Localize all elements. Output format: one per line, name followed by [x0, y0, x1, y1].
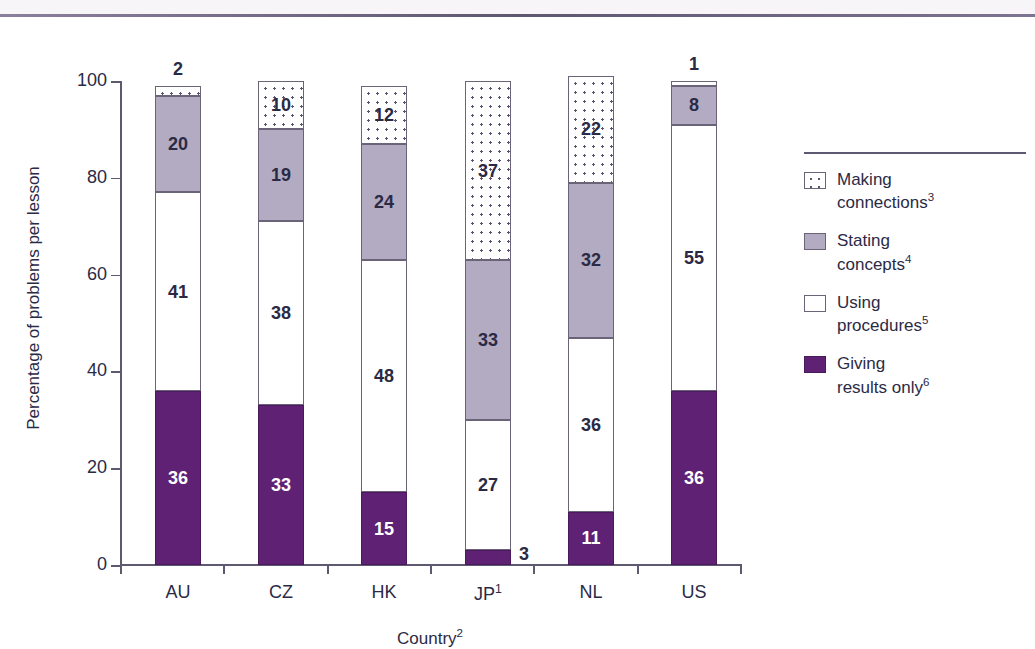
legend-item-making[interactable]: Makingconnections3	[804, 169, 1030, 213]
y-axis-title: Percentage of problems per lesson	[24, 68, 44, 528]
bar-segment-hk-stating-concepts: 24	[361, 144, 407, 260]
bar-us: 365581	[671, 61, 717, 565]
chart-legend: Makingconnections3Statingconcepts4Usingp…	[804, 152, 1030, 398]
bar-cz: 33381910	[258, 61, 304, 565]
x-axis-tick-label-us: US	[649, 582, 739, 603]
x-axis-tick	[327, 564, 329, 574]
x-axis-tick	[120, 564, 122, 574]
bar-segment-au-using-procedures: 41	[155, 192, 201, 390]
bar-segment-us-using-procedures: 55	[671, 125, 717, 391]
bar-segment-hk-making-connections: 12	[361, 86, 407, 144]
bar-segment-jp-using-procedures: 27	[465, 420, 511, 551]
bar-segment-us-giving-results-only: 36	[671, 391, 717, 565]
x-axis-tick-label-au: AU	[133, 582, 223, 603]
bar-segment-au-stating-concepts: 20	[155, 96, 201, 193]
bar-segment-jp-stating-concepts: 33	[465, 260, 511, 420]
y-axis-tick-label: 0	[47, 554, 107, 575]
x-axis-tick	[740, 564, 742, 574]
y-axis-tick-label: 40	[47, 360, 107, 381]
x-axis-tick-label-jp: JP1	[443, 582, 533, 605]
bar-segment-au-giving-results-only: 36	[155, 391, 201, 565]
bar-segment-nl-making-connections: 22	[568, 76, 614, 182]
bar-segment-nl-giving-results-only: 11	[568, 512, 614, 565]
bar-segment-au-making-connections	[155, 86, 201, 96]
bar-value-label-jp: 3	[519, 544, 553, 565]
chart-figure: Percentage of problems per lesson 100806…	[0, 20, 760, 639]
x-axis-title: Country2	[120, 627, 740, 649]
y-axis-tick	[111, 565, 120, 567]
top-band	[0, 0, 1035, 14]
legend-swatch-giving-icon	[804, 356, 826, 373]
y-axis-tick	[111, 81, 120, 83]
bar-segment-cz-making-connections: 10	[258, 81, 304, 129]
bar-nl: 11363222	[568, 61, 614, 565]
legend-label: Givingresults only6	[837, 353, 929, 397]
bar-segment-jp-making-connections: 37	[465, 81, 511, 260]
bar-segment-hk-using-procedures: 48	[361, 260, 407, 492]
bar-segment-jp-giving-results-only	[465, 550, 511, 565]
x-axis-tick	[223, 564, 225, 574]
y-axis-tick-label: 20	[47, 457, 107, 478]
legend-label: Makingconnections3	[837, 169, 934, 213]
x-axis-tick	[533, 564, 535, 574]
bar-segment-cz-using-procedures: 38	[258, 221, 304, 405]
legend-swatch-stating-icon	[804, 233, 826, 250]
legend-swatch-making-icon	[804, 172, 826, 189]
y-axis-tick	[111, 371, 120, 373]
bar-segment-cz-giving-results-only: 33	[258, 405, 304, 565]
x-axis-tick-label-cz: CZ	[236, 582, 326, 603]
plot-area: 100806040200 AUCZHKJP1NLUS 3641202333819…	[120, 61, 740, 565]
bar-segment-us-making-connections	[671, 81, 717, 86]
y-axis-line	[120, 81, 122, 565]
legend-swatch-using-icon	[804, 295, 826, 312]
bar-hk: 15482412	[361, 61, 407, 565]
legend-label: Usingprocedures5	[837, 292, 928, 336]
x-axis-tick-label-hk: HK	[339, 582, 429, 603]
top-divider-rule	[0, 14, 1035, 17]
bar-au: 3641202	[155, 61, 201, 565]
bar-jp: 3273337	[465, 61, 511, 565]
bar-segment-cz-stating-concepts: 19	[258, 129, 304, 221]
y-axis-tick-label: 80	[47, 167, 107, 188]
bar-segment-hk-giving-results-only: 15	[361, 492, 407, 565]
y-axis-tick	[111, 178, 120, 180]
x-axis-tick	[430, 564, 432, 574]
legend-label: Statingconcepts4	[837, 230, 911, 274]
bar-segment-us-stating-concepts: 8	[671, 86, 717, 125]
y-axis-tick-label: 60	[47, 264, 107, 285]
y-axis-tick	[111, 468, 120, 470]
legend-item-using[interactable]: Usingprocedures5	[804, 292, 1030, 336]
legend-item-giving[interactable]: Givingresults only6	[804, 353, 1030, 397]
bar-segment-nl-using-procedures: 36	[568, 338, 614, 512]
bar-value-label-us: 1	[649, 54, 739, 75]
y-axis-tick-label: 100	[47, 70, 107, 91]
x-axis-tick	[637, 564, 639, 574]
x-axis-tick-label-nl: NL	[546, 582, 636, 603]
y-axis-tick	[111, 275, 120, 277]
legend-item-stating[interactable]: Statingconcepts4	[804, 230, 1030, 274]
bar-value-label-au: 2	[133, 59, 223, 80]
bar-segment-nl-stating-concepts: 32	[568, 183, 614, 338]
